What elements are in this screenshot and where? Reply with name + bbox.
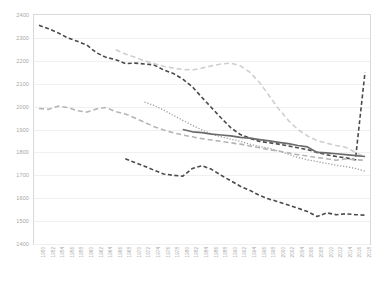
x-axis-tick-label: 1968 bbox=[127, 247, 132, 257]
x-axis-tick-label: 1978 bbox=[175, 247, 180, 257]
data-series-line bbox=[144, 102, 365, 171]
line-chart: 2400230022002100200019001800170016001500… bbox=[0, 0, 386, 287]
y-axis-tick-label: 2000 bbox=[16, 104, 29, 110]
x-axis-tick-label: 1952 bbox=[51, 247, 56, 257]
x-axis-tick-label: 1960 bbox=[89, 247, 94, 257]
x-axis-tick-label: 1972 bbox=[146, 247, 151, 257]
y-axis-tick-label: 1400 bbox=[16, 241, 29, 247]
data-series-line bbox=[116, 50, 365, 157]
x-axis-labels: 1950195219541956195819601962196419661968… bbox=[33, 247, 371, 285]
x-axis-tick-label: 1950 bbox=[41, 247, 46, 257]
x-axis-tick-label: 2010 bbox=[329, 247, 334, 257]
x-axis-tick-label: 1984 bbox=[204, 247, 209, 257]
gridline bbox=[34, 244, 370, 245]
x-axis-tick-label: 1996 bbox=[262, 247, 267, 257]
y-axis-tick-label: 1700 bbox=[16, 172, 29, 178]
y-axis-tick-label: 1500 bbox=[16, 218, 29, 224]
x-axis-tick-label: 1988 bbox=[223, 247, 228, 257]
x-axis-tick-label: 2006 bbox=[309, 247, 314, 257]
y-axis-tick-label: 2100 bbox=[16, 81, 29, 87]
x-axis-tick-label: 2002 bbox=[290, 247, 295, 257]
x-axis-tick-label: 2014 bbox=[348, 247, 353, 257]
x-axis-tick-label: 1962 bbox=[99, 247, 104, 257]
y-axis-tick-label: 2200 bbox=[16, 58, 29, 64]
x-axis-tick-label: 1994 bbox=[252, 247, 257, 257]
x-axis-tick-label: 2016 bbox=[357, 247, 362, 257]
y-axis-tick-label: 2400 bbox=[16, 12, 29, 18]
x-axis-tick-label: 1970 bbox=[137, 247, 142, 257]
y-axis-tick-label: 2300 bbox=[16, 35, 29, 41]
x-axis-tick-label: 2012 bbox=[338, 247, 343, 257]
x-axis-tick-label: 1982 bbox=[194, 247, 199, 257]
data-series-line bbox=[125, 159, 365, 217]
plot-area bbox=[33, 14, 371, 245]
x-axis-tick-label: 1958 bbox=[79, 247, 84, 257]
x-axis-tick-label: 1964 bbox=[108, 247, 113, 257]
x-axis-tick-label: 1976 bbox=[166, 247, 171, 257]
y-axis-tick-label: 1800 bbox=[16, 149, 29, 155]
x-axis-tick-label: 2004 bbox=[300, 247, 305, 257]
x-axis-tick-label: 2008 bbox=[319, 247, 324, 257]
x-axis-tick-label: 1992 bbox=[242, 247, 247, 257]
x-axis-tick-label: 1990 bbox=[233, 247, 238, 257]
x-axis-tick-label: 1954 bbox=[60, 247, 65, 257]
x-axis-tick-label: 1986 bbox=[214, 247, 219, 257]
y-axis-tick-label: 1900 bbox=[16, 127, 29, 133]
x-axis-tick-label: 2000 bbox=[281, 247, 286, 257]
x-axis-tick-label: 1956 bbox=[70, 247, 75, 257]
x-axis-tick-label: 2018 bbox=[367, 247, 372, 257]
series-layer bbox=[34, 15, 370, 244]
x-axis-tick-label: 1998 bbox=[271, 247, 276, 257]
y-axis-tick-label: 1600 bbox=[16, 195, 29, 201]
x-axis-tick-label: 1974 bbox=[156, 247, 161, 257]
y-axis-labels: 2400230022002100200019001800170016001500… bbox=[0, 0, 33, 287]
x-axis-tick-label: 1980 bbox=[185, 247, 190, 257]
data-series-line bbox=[183, 130, 365, 157]
x-axis-tick-label: 1966 bbox=[118, 247, 123, 257]
